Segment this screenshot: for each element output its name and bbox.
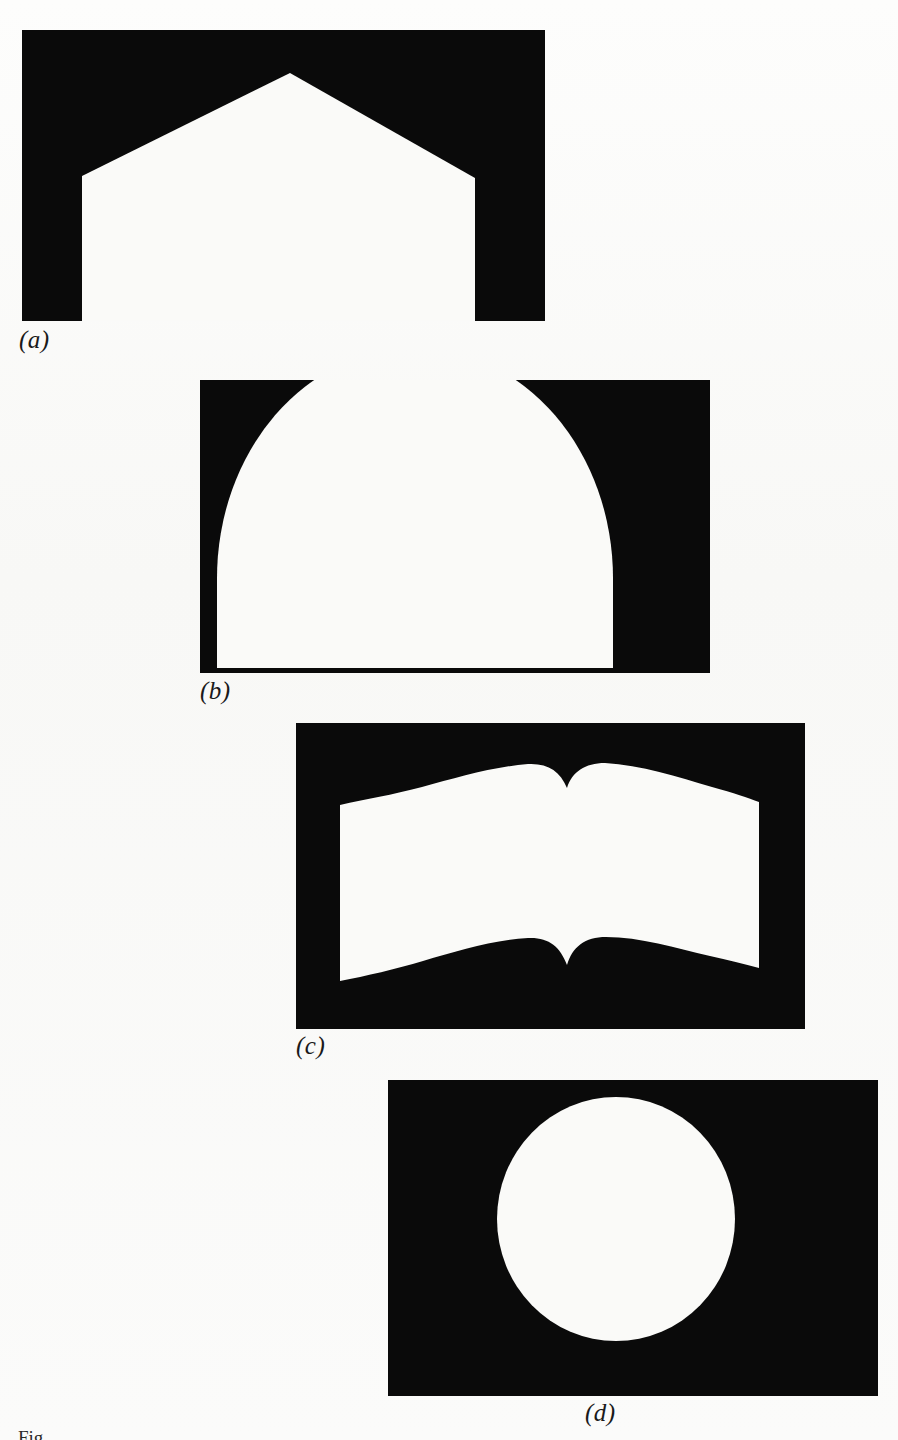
circle-shape <box>497 1097 735 1341</box>
panel-c-graphic <box>296 723 805 1029</box>
panel-b-baseline <box>200 668 710 673</box>
panel-b-graphic <box>200 380 710 673</box>
panel-c-book <box>296 723 805 1029</box>
panel-a-graphic <box>22 30 545 321</box>
panel-a-house <box>22 30 545 321</box>
caption-a: (a) <box>19 327 50 352</box>
figure-page: (a) (b) (c) (d) Fig. <box>0 0 898 1440</box>
dome-shape <box>217 380 613 668</box>
caption-d: (d) <box>585 1400 616 1425</box>
figure-caption-cutoff: Fig. <box>18 1428 48 1440</box>
panel-d-circle <box>388 1080 878 1396</box>
panel-d-graphic <box>388 1080 878 1396</box>
caption-c: (c) <box>296 1033 325 1058</box>
panel-b-dome <box>200 380 710 673</box>
caption-b: (b) <box>200 678 231 703</box>
